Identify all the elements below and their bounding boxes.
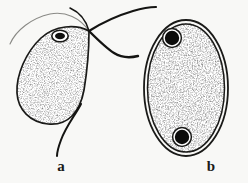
panel-label-b: b [201, 159, 221, 174]
figure-illustration [0, 0, 248, 183]
panel-label-a: a [51, 159, 71, 174]
flagellum-anterior [89, 7, 156, 31]
flagellum-posterior [89, 31, 138, 57]
nucleus-b-lower [173, 128, 192, 147]
nucleus-b-upper [163, 29, 182, 48]
nucleus-a [52, 30, 68, 42]
figure-root: a b [0, 0, 248, 183]
panel-b-cyst [144, 20, 229, 158]
panel-a-trophozoite [10, 7, 156, 156]
